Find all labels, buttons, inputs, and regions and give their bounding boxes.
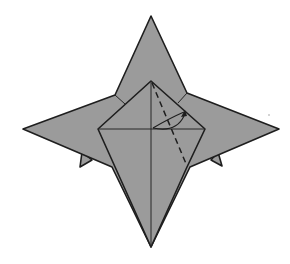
stray-mark [268,114,269,115]
origami-diagram [0,0,290,264]
